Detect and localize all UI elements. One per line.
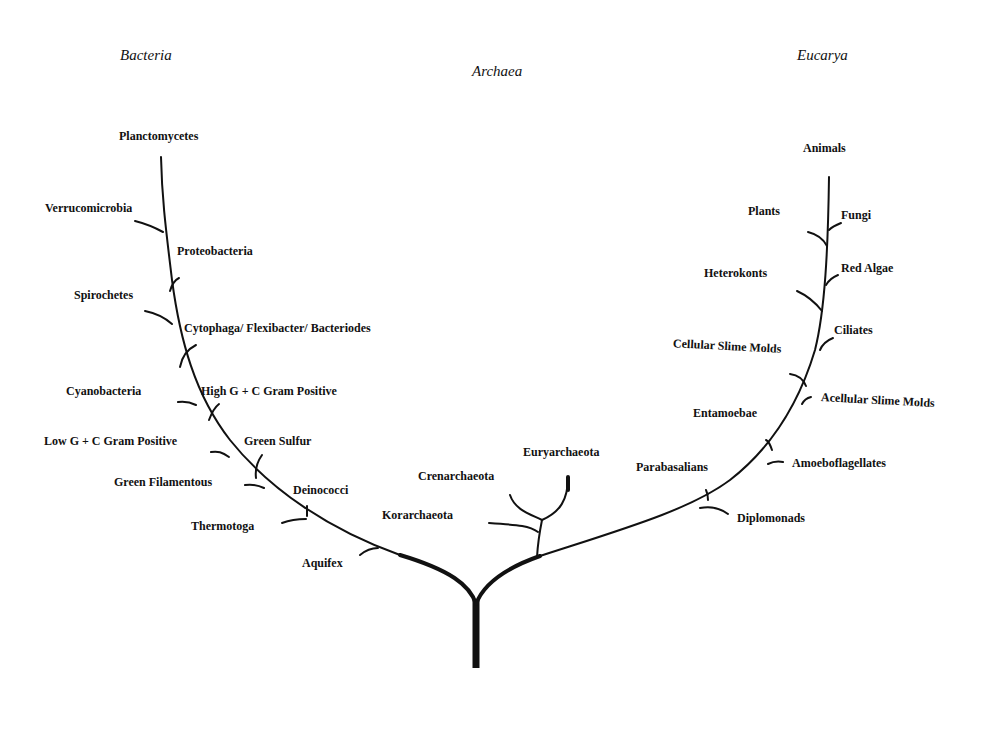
taxon-label: Parabasalians bbox=[636, 461, 708, 473]
archaea-branch bbox=[537, 520, 542, 557]
taxon-label: Korarchaeota bbox=[382, 509, 453, 521]
domain-label-archaea: Archaea bbox=[472, 64, 522, 79]
taxon-label: Red Algae bbox=[841, 262, 893, 274]
taxon-label: High G + C Gram Positive bbox=[201, 385, 337, 397]
taxon-label: Deinococci bbox=[293, 484, 348, 496]
taxon-label: Heterokonts bbox=[704, 267, 767, 279]
taxon-label: Amoeboflagellates bbox=[792, 457, 886, 469]
domain-label-eucarya: Eucarya bbox=[797, 48, 848, 63]
taxon-label: Euryarchaeota bbox=[523, 446, 599, 458]
phylogenetic-tree-lines bbox=[0, 0, 1000, 733]
bacteria-branch bbox=[161, 157, 400, 555]
taxon-label: Cytophaga/ Flexibacter/ Bacteriodes bbox=[184, 322, 371, 334]
taxon-label: Animals bbox=[803, 142, 846, 154]
taxon-label: Crenarchaeota bbox=[418, 470, 494, 482]
taxon-label: Green Sulfur bbox=[244, 435, 311, 447]
taxon-label: Proteobacteria bbox=[177, 245, 253, 257]
taxon-label: Plants bbox=[748, 205, 780, 217]
taxon-label: Planctomycetes bbox=[119, 130, 198, 142]
taxon-label: Spirochetes bbox=[74, 289, 133, 301]
taxon-label: Fungi bbox=[841, 209, 871, 221]
taxon-label: Ciliates bbox=[834, 324, 873, 336]
eucarya-branch bbox=[540, 177, 829, 556]
taxon-label: Green Filamentous bbox=[114, 476, 212, 488]
domain-label-bacteria: Bacteria bbox=[120, 48, 172, 63]
taxon-label: Cyanobacteria bbox=[66, 385, 141, 397]
taxon-label: Aquifex bbox=[302, 557, 343, 569]
taxon-label: Diplomonads bbox=[737, 512, 805, 524]
taxon-label: Verrucomicrobia bbox=[45, 202, 132, 214]
taxon-label: Entamoebae bbox=[693, 407, 757, 419]
taxon-label: Thermotoga bbox=[191, 520, 254, 532]
taxon-label: Low G + C Gram Positive bbox=[44, 435, 177, 447]
